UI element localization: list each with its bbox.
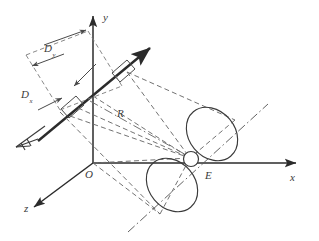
origin-label: O bbox=[85, 169, 93, 180]
dimension-dx-base: D bbox=[21, 88, 29, 100]
dimension-arrow-dx bbox=[38, 64, 96, 110]
figure-canvas: y x z O E R Dy Dx bbox=[0, 0, 319, 241]
range-projection-lines bbox=[60, 72, 235, 214]
y-axis-label: y bbox=[103, 12, 108, 23]
target-marker-circle bbox=[184, 152, 199, 167]
x-axis-label: x bbox=[290, 172, 295, 183]
diagram-vector-graphics bbox=[0, 0, 319, 241]
z-axis-label: z bbox=[24, 203, 28, 214]
dimension-label-dx: Dx bbox=[21, 89, 32, 103]
dimension-dy-base: D bbox=[44, 42, 52, 54]
dimension-label-dy: Dy bbox=[44, 43, 55, 57]
dimension-arrow-dy bbox=[32, 30, 86, 66]
target-point-label: E bbox=[205, 170, 212, 181]
range-label: R bbox=[117, 108, 124, 119]
beam-direction-arrow bbox=[38, 48, 150, 141]
